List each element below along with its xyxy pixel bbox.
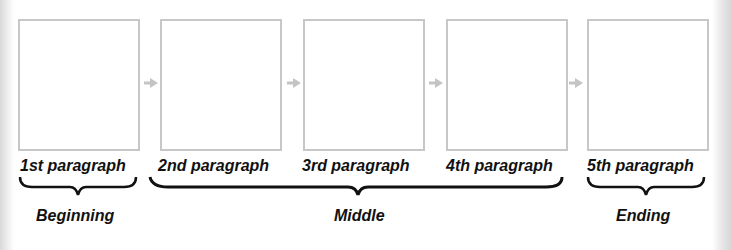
arrow-right-icon — [429, 78, 443, 88]
brace-ending — [586, 175, 706, 199]
paragraph-box-1 — [18, 19, 140, 151]
brace-middle — [148, 175, 566, 199]
arrow-right-icon — [569, 78, 583, 88]
paragraph-label-1: 1st paragraph — [20, 157, 126, 175]
paragraph-box-5 — [587, 19, 709, 151]
arrow-right-icon — [287, 78, 301, 88]
paragraph-box-3 — [303, 19, 425, 151]
group-label-ending: Ending — [616, 207, 670, 225]
paragraph-label-2: 2nd paragraph — [158, 157, 269, 175]
page-edge-shadow-left — [0, 0, 14, 250]
arrow-right-icon — [144, 78, 158, 88]
brace-beginning — [18, 175, 138, 199]
page-edge-shadow-right — [712, 0, 732, 250]
group-label-middle: Middle — [334, 207, 385, 225]
group-label-beginning: Beginning — [36, 207, 114, 225]
paragraph-box-4 — [446, 19, 568, 151]
paragraph-label-5: 5th paragraph — [587, 157, 694, 175]
paragraph-box-2 — [160, 19, 282, 151]
paragraph-label-4: 4th paragraph — [446, 157, 553, 175]
paragraph-label-3: 3rd paragraph — [302, 157, 410, 175]
